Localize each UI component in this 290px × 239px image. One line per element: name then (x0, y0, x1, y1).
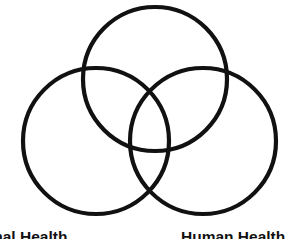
label-animal-health: Animal Health (0, 229, 67, 239)
venn-diagram: Animal Health Human Health (0, 0, 290, 239)
top-circle (83, 7, 227, 151)
label-human-health: Human Health (181, 229, 285, 239)
venn-circles (0, 0, 290, 239)
right-circle (130, 68, 276, 214)
left-circle (23, 68, 169, 214)
